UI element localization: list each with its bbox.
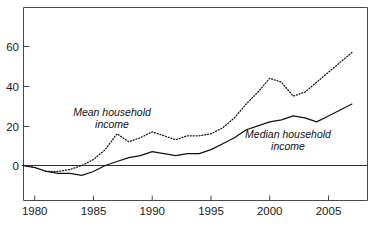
x-axis-label-2005: 2005 [316,205,342,217]
x-axis-labels: 1980 1985 1990 1995 2000 2005 [22,205,341,217]
x-axis-label-2000: 2000 [257,205,283,217]
annotation-mean-line1: Mean household [73,106,152,118]
annotation-mean-household-income: Mean household income [73,106,152,130]
annotation-median-line1: Median household [245,128,332,140]
y-axis-label-40: 40 [6,81,19,93]
x-axis-label-1985: 1985 [81,205,107,217]
chart-figure: 60 40 20 0 1980 1985 1990 1995 2000 2005 [0,0,379,229]
annotation-mean-line2: income [95,118,129,130]
y-axis-ticks [24,47,30,166]
y-axis-labels: 60 40 20 0 [6,41,19,172]
annotation-median-line2: income [271,140,305,152]
y-axis-label-20: 20 [6,121,19,133]
x-axis-label-1990: 1990 [139,205,165,217]
x-axis-label-1995: 1995 [198,205,224,217]
x-axis-label-1980: 1980 [22,205,48,217]
x-axis-ticks [35,196,329,201]
y-axis-label-60: 60 [6,41,19,53]
annotation-median-household-income: Median household income [245,128,332,152]
line-chart-canvas: 60 40 20 0 1980 1985 1990 1995 2000 2005 [0,0,379,229]
plot-frame [24,8,368,201]
y-axis-label-0: 0 [13,160,19,172]
